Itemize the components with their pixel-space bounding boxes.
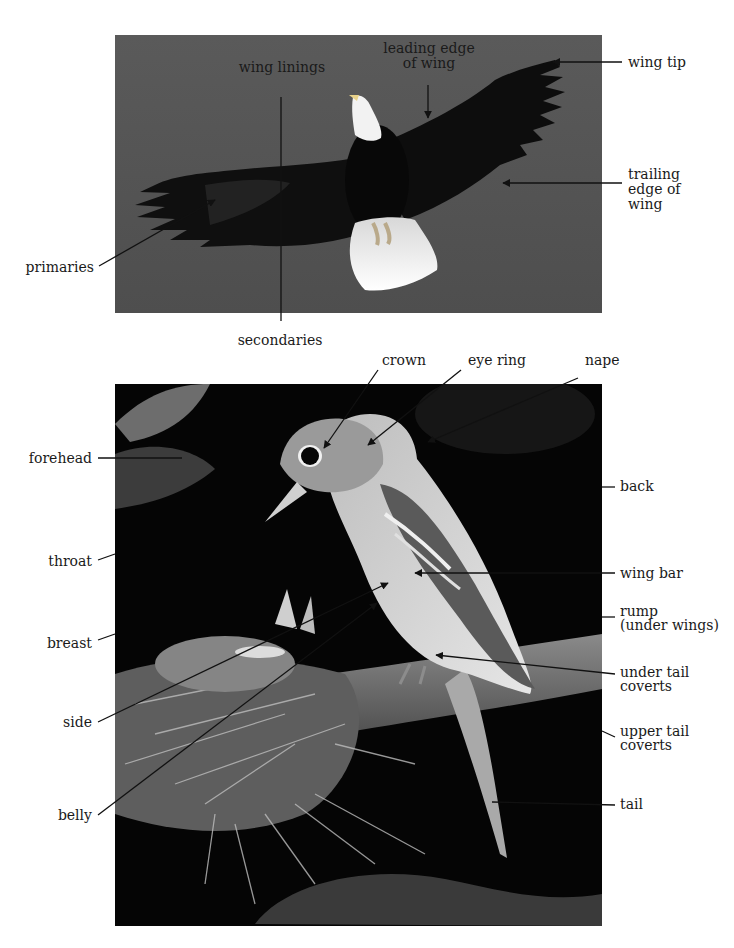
label-eye-ring: eye ring: [468, 353, 526, 367]
label-secondaries: secondaries: [230, 333, 330, 347]
leader-upper-tail-coverts: [602, 731, 615, 737]
leader-breast: [98, 634, 115, 640]
label-under-tail-coverts: under tail coverts: [620, 665, 689, 693]
label-wing-bar: wing bar: [620, 566, 683, 580]
label-breast: breast: [8, 636, 92, 650]
label-nape: nape: [585, 353, 620, 367]
label-crown: crown: [382, 353, 426, 367]
label-wing-tip: wing tip: [628, 55, 686, 69]
label-upper-tail-coverts: upper tail coverts: [620, 724, 689, 752]
leader-throat: [98, 554, 115, 560]
label-back: back: [620, 479, 654, 493]
eagle-illustration: [115, 35, 602, 313]
label-rump-under-wings: rump (under wings): [620, 604, 719, 632]
label-wing-linings: wing linings: [232, 60, 332, 74]
label-throat: throat: [8, 554, 92, 568]
eagle-photo: [115, 35, 602, 313]
label-side: side: [8, 715, 92, 729]
label-primaries: primaries: [8, 260, 94, 274]
songbird-illustration: [115, 384, 602, 926]
label-forehead: forehead: [8, 451, 92, 465]
label-leading-edge-of-wing: leading edge of wing: [369, 41, 489, 71]
label-tail: tail: [620, 797, 643, 811]
label-trailing-edge-of-wing: trailing edge of wing: [628, 167, 681, 212]
label-belly: belly: [8, 808, 92, 822]
songbird-photo: [115, 384, 602, 926]
